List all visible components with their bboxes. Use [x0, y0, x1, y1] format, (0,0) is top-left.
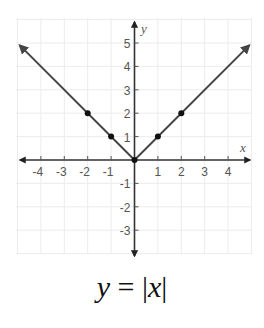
y-tick-label: -1	[120, 177, 131, 191]
axes	[20, 22, 250, 256]
x-tick-label: -4	[33, 165, 44, 179]
data-point	[132, 157, 138, 163]
x-tick-label: 3	[201, 165, 208, 179]
equation-lhs: y	[97, 270, 110, 303]
y-tick-label: 1	[124, 131, 131, 145]
y-tick-label: 4	[124, 60, 131, 74]
equation-equals: =	[110, 270, 142, 303]
x-tick-label: -3	[56, 165, 67, 179]
x-tick-label: -2	[79, 165, 90, 179]
y-tick-label: 2	[124, 107, 131, 121]
data-point	[85, 110, 91, 116]
data-point	[178, 110, 184, 116]
y-tick-label: 3	[124, 84, 131, 98]
line-left-branch	[20, 45, 135, 160]
data-point	[155, 134, 161, 140]
y-tick-label: -3	[120, 224, 131, 238]
x-tick-label: 1	[155, 165, 162, 179]
x-axis-label: x	[239, 140, 246, 155]
equation-label: y = |x|	[0, 270, 264, 304]
ticks: -4-3-2-1123454321-1-2-3	[33, 37, 232, 238]
graph-canvas: -4-3-2-1123454321-1-2-3 x y	[0, 0, 264, 262]
y-tick-label: 5	[124, 37, 131, 51]
abs-bar-right: |	[161, 270, 167, 303]
x-tick-label: -1	[103, 165, 114, 179]
x-tick-label: 2	[178, 165, 185, 179]
equation-var: x	[148, 270, 161, 303]
y-tick-label: -2	[120, 201, 131, 215]
line-right-branch	[135, 45, 250, 160]
data-point	[108, 134, 114, 140]
x-tick-label: 4	[225, 165, 232, 179]
y-axis-label: y	[139, 21, 147, 36]
